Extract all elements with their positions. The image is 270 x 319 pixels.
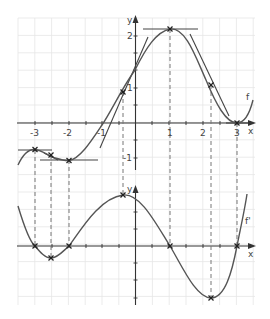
y-tick-label: -1	[123, 153, 132, 163]
bottom-x-label: x	[248, 249, 254, 259]
x-tick-label: 3	[234, 128, 240, 138]
top-y-label: y	[127, 15, 133, 25]
fprime-label: f'	[245, 216, 251, 226]
function-and-derivative-graph: x y x y f f' -3 -2 -1 1 2 3 2 1 -1	[0, 0, 270, 319]
x-tick-label: 2	[200, 128, 206, 138]
bottom-y-arrow-icon	[133, 185, 139, 193]
bottom-y-label: y	[127, 184, 133, 194]
f-label: f	[246, 92, 250, 102]
top-x-label: x	[248, 126, 254, 136]
top-y-arrow-icon	[133, 15, 139, 23]
y-tick-label: 1	[127, 83, 133, 93]
grid	[18, 18, 255, 305]
x-tick-label: -3	[30, 128, 39, 138]
x-tick-label: -2	[63, 128, 72, 138]
x-tick-label: 1	[167, 128, 173, 138]
tangent-lines	[18, 29, 248, 160]
y-tick-label: 2	[127, 31, 133, 41]
x-tick-label: -1	[97, 128, 106, 138]
